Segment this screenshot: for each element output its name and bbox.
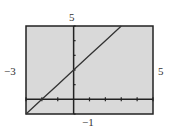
graph-window: [0, 0, 170, 134]
